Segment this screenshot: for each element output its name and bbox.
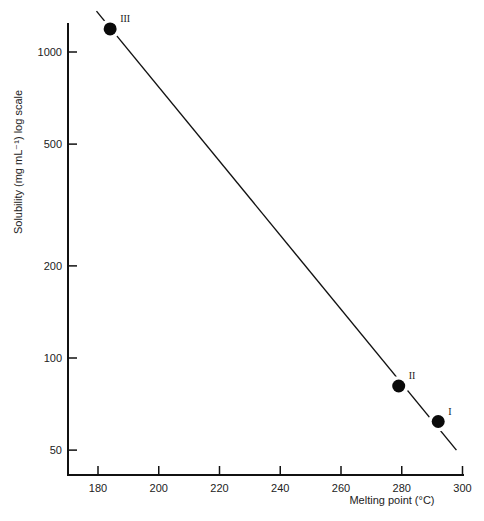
x-tick-label: 300 (453, 482, 471, 494)
point-label: III (120, 13, 130, 24)
x-tick-label: 220 (210, 482, 228, 494)
y-tick-label: 100 (44, 352, 62, 364)
x-tick-label: 240 (271, 482, 289, 494)
x-tick-label: 260 (332, 482, 350, 494)
y-tick-label: 50 (50, 444, 62, 456)
data-point-ii (392, 380, 405, 393)
data-point-i (432, 415, 445, 428)
x-axis-title: Melting point (°C) (349, 494, 434, 506)
x-tick-label: 280 (393, 482, 411, 494)
point-label: I (448, 406, 451, 417)
data-point-iii (104, 22, 117, 35)
axes: 501002005001000180200220240260280300 (38, 23, 472, 494)
point-label: II (409, 370, 416, 381)
y-tick-label: 200 (44, 260, 62, 272)
y-axis-title: Solubility (mg mL⁻¹) log scale (12, 90, 24, 234)
solubility-vs-melting-point-chart: 501002005001000180200220240260280300 III… (0, 0, 484, 521)
x-tick-label: 180 (89, 482, 107, 494)
y-tick-label: 500 (44, 138, 62, 150)
y-tick-label: 1000 (38, 46, 62, 58)
data-points: IIIIII (100, 13, 451, 432)
x-tick-label: 200 (150, 482, 168, 494)
